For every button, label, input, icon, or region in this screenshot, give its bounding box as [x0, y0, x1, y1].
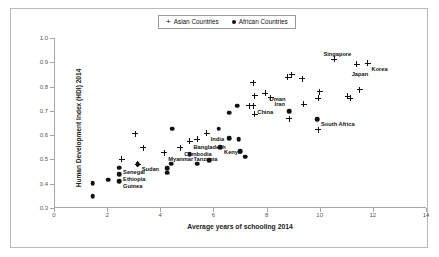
plus-marker-icon — [354, 61, 360, 67]
plus-marker-icon — [250, 103, 256, 109]
plus-marker-icon — [194, 136, 200, 142]
y-axis-tick — [50, 62, 54, 63]
data-point — [135, 134, 141, 140]
plus-marker-icon — [317, 89, 323, 95]
x-axis-tick-label: 2 — [105, 212, 108, 218]
data-point — [229, 138, 234, 143]
data-point — [143, 148, 149, 154]
data-point — [237, 106, 242, 111]
circle-marker-icon — [135, 162, 140, 167]
y-axis-tick — [50, 38, 54, 39]
legend-label-asian-countries: Asian Countries — [174, 19, 219, 25]
data-point — [255, 96, 261, 102]
circle-marker-icon — [232, 20, 236, 24]
plus-marker-icon — [204, 130, 210, 136]
data-point-label: South Africa — [321, 121, 355, 127]
x-axis-tick-label: 12 — [370, 212, 377, 218]
circle-marker-icon — [207, 158, 212, 163]
circle-marker-icon — [117, 179, 122, 184]
data-point: Tanzania — [190, 154, 195, 159]
legend-item-asian-countries: + Asian Countries — [166, 18, 219, 26]
circle-marker-icon — [117, 172, 122, 177]
data-point-label: Iran — [275, 101, 285, 107]
data-point: India — [207, 133, 213, 139]
x-axis-tick-label: 4 — [159, 212, 162, 218]
data-point — [289, 111, 294, 116]
y-axis-tick — [50, 184, 54, 185]
plus-marker-icon — [301, 101, 307, 107]
plus-marker-icon — [187, 138, 193, 144]
circle-marker-icon — [287, 109, 292, 114]
data-point-label: Korea — [372, 66, 388, 72]
data-point: Ethiopia — [119, 174, 124, 179]
circle-marker-icon — [117, 165, 122, 170]
data-point — [318, 130, 324, 136]
circle-marker-icon — [195, 161, 200, 166]
data-point — [219, 129, 224, 134]
plus-marker-icon — [252, 93, 258, 99]
data-point: Korea — [368, 63, 374, 69]
chart-figure: + Asian Countries African Countries Huma… — [10, 8, 428, 248]
plus-marker-icon — [365, 60, 371, 66]
data-point — [255, 114, 261, 120]
data-point — [209, 160, 214, 165]
data-point — [245, 157, 250, 162]
y-axis-tick — [50, 87, 54, 88]
x-axis-tick-label: 0 — [52, 212, 55, 218]
data-point: Japan — [357, 64, 363, 70]
data-point: Kenya — [220, 147, 225, 152]
data-point — [171, 164, 176, 169]
plus-marker-icon — [252, 111, 258, 117]
circle-marker-icon — [187, 152, 192, 157]
data-point: Myanmar — [164, 153, 170, 159]
x-axis-tick-label: 10 — [316, 212, 323, 218]
data-point-label: Sudan — [142, 166, 159, 172]
circle-marker-icon — [165, 170, 170, 175]
circle-marker-icon — [106, 177, 111, 182]
y-axis-tick-label: 0.4 — [40, 181, 48, 187]
data-point — [93, 196, 98, 201]
data-point — [350, 98, 356, 104]
data-point-label: Guinea — [123, 183, 142, 189]
data-point: Iran — [271, 98, 277, 104]
plus-marker-icon — [286, 116, 292, 122]
x-axis-title: Average years of schooling 2014 — [54, 223, 426, 230]
plus-marker-icon — [357, 87, 363, 93]
data-point — [108, 180, 113, 185]
data-point: Guinea — [119, 181, 124, 186]
circle-marker-icon — [227, 111, 232, 116]
y-axis-tick-label: 1.0 — [40, 35, 48, 41]
circle-marker-icon — [235, 103, 240, 108]
x-axis-tick-label: 14 — [423, 212, 430, 218]
data-point — [229, 113, 234, 118]
plot-area: 0.30.40.50.60.70.80.91.0 02468101214 Mya… — [54, 38, 426, 208]
chart-legend: + Asian Countries African Countries — [158, 15, 296, 29]
data-point-label: India — [211, 136, 224, 142]
circle-marker-icon — [238, 149, 243, 154]
plus-marker-icon — [132, 131, 138, 137]
circle-marker-icon — [170, 126, 175, 131]
data-point: South Africa — [317, 119, 322, 124]
y-axis-tick — [50, 135, 54, 136]
plus-marker-icon — [347, 95, 353, 101]
data-point — [172, 129, 177, 134]
circle-marker-icon — [90, 194, 95, 199]
plus-marker-icon — [119, 156, 125, 162]
data-point — [304, 104, 310, 110]
plus-marker-icon — [289, 72, 295, 78]
data-point-label: Japan — [352, 71, 368, 77]
circle-marker-icon — [243, 154, 248, 159]
data-point — [302, 79, 308, 85]
plus-marker-icon — [177, 145, 183, 151]
plus-marker-icon — [268, 95, 274, 101]
circle-marker-icon — [236, 137, 241, 142]
circle-marker-icon — [227, 136, 232, 141]
legend-label-african-countries: African Countries — [239, 19, 288, 25]
circle-marker-icon — [90, 181, 95, 186]
plus-marker-icon — [315, 127, 321, 133]
data-point — [360, 90, 366, 96]
circle-marker-icon — [315, 117, 320, 122]
data-point-label: Singapore — [323, 51, 351, 57]
plus-marker-icon — [299, 76, 305, 82]
data-point — [167, 173, 172, 178]
